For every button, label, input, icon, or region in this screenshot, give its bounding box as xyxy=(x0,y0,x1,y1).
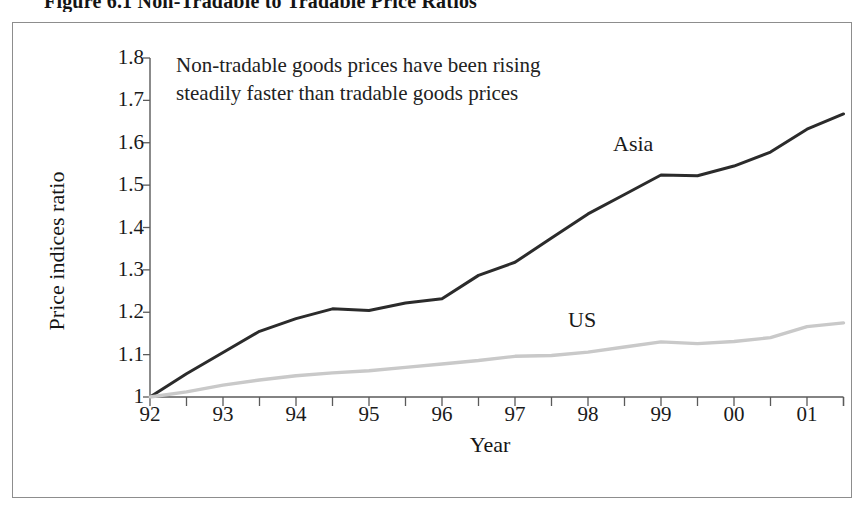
chart-series xyxy=(150,114,844,397)
x-tick-label: 98 xyxy=(565,404,611,425)
y-axis-title: Price indices ratio xyxy=(44,141,70,361)
x-tick-label: 95 xyxy=(346,404,392,425)
y-tick-label: 1.4 xyxy=(100,217,144,238)
chart-axes xyxy=(143,58,844,406)
series-label-us: US xyxy=(568,307,596,333)
y-axis-tick-labels: 11.11.21.31.41.51.61.71.8 xyxy=(96,0,144,460)
y-tick-label: 1.8 xyxy=(100,47,144,68)
y-tick-label: 1.3 xyxy=(100,259,144,280)
x-tick-label: 94 xyxy=(273,404,319,425)
y-tick-label: 1.6 xyxy=(100,132,144,153)
y-tick-label: 1.7 xyxy=(100,89,144,110)
x-tick-label: 97 xyxy=(492,404,538,425)
x-tick-label: 92 xyxy=(127,404,173,425)
x-tick-label: 96 xyxy=(419,404,465,425)
series-line-asia xyxy=(150,114,844,397)
x-tick-label: 99 xyxy=(638,404,684,425)
y-tick-label: 1.2 xyxy=(100,301,144,322)
x-tick-label: 00 xyxy=(711,404,757,425)
annotation-line-1: Non-tradable goods prices have been risi… xyxy=(176,52,626,80)
chart-annotation: Non-tradable goods prices have been risi… xyxy=(176,52,626,107)
chart-plot-area: 11.11.21.31.41.51.61.71.8 92939495969798… xyxy=(0,0,865,509)
series-label-asia: Asia xyxy=(613,131,653,157)
x-tick-label: 01 xyxy=(784,404,830,425)
x-axis-title: Year xyxy=(410,432,570,458)
y-tick-label: 1.5 xyxy=(100,174,144,195)
y-tick-label: 1.1 xyxy=(100,344,144,365)
x-tick-label: 93 xyxy=(200,404,246,425)
annotation-line-2: steadily faster than tradable goods pric… xyxy=(176,80,626,108)
